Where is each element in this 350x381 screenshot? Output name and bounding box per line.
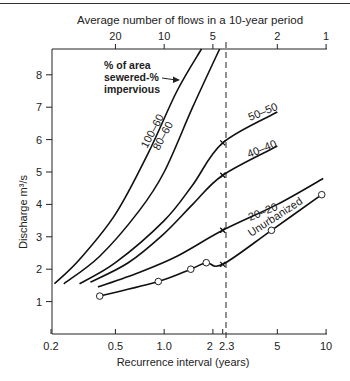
svg-text:% of area: % of area [104, 59, 151, 71]
x-tick-label: 2.3 [219, 340, 234, 352]
y-tick-label: 7 [36, 101, 42, 113]
top-tick-label: 5 [210, 30, 216, 42]
x-tick-label: 0.5 [108, 340, 123, 352]
x-tick-label: 2 [207, 340, 213, 352]
y-tick-label: 4 [36, 198, 42, 210]
x-tick-label: 5 [274, 340, 280, 352]
circle-marker [318, 191, 325, 198]
top-tick-label: 20 [109, 30, 121, 42]
y-axis-ticks: 12345678 [36, 69, 52, 308]
y-tick-label: 3 [36, 231, 42, 243]
curves [54, 49, 323, 296]
curve-20-20 [98, 178, 323, 287]
top-tick-label: 1 [323, 30, 329, 42]
x-marker [220, 173, 225, 178]
discharge-chart: 12345678 0.20.51.022.3510 2010521 Averag… [0, 0, 350, 381]
x-axis-label: Recurrence interval (years) [117, 356, 250, 368]
curve-50-50 [80, 112, 278, 284]
top-tick-label: 10 [158, 30, 170, 42]
legend-annotation: % of area sewered-% impervious [104, 59, 160, 95]
circle-marker [187, 266, 194, 273]
y-tick-label: 6 [36, 134, 42, 146]
x-axis-ticks: 0.20.51.022.3510 [43, 329, 332, 352]
x-tick-label: 0.2 [43, 340, 58, 352]
circle-marker [155, 278, 162, 285]
circle-marker [268, 227, 275, 234]
x-tick-label: 10 [320, 340, 332, 352]
annotation-arrow [162, 77, 180, 84]
y-axis-label: Discharge m³/s [17, 175, 29, 249]
axes [52, 49, 327, 334]
circle-marker [96, 293, 103, 300]
x-tick-label: 1.0 [157, 340, 172, 352]
svg-text:sewered-%: sewered-% [104, 71, 160, 83]
y-tick-label: 5 [36, 166, 42, 178]
svg-text:impervious: impervious [104, 83, 160, 95]
y-tick-label: 1 [36, 296, 42, 308]
top-axis-label: Average number of flows in a 10-year per… [77, 14, 303, 26]
x-marker [220, 140, 225, 145]
y-tick-label: 2 [36, 263, 42, 275]
circle-marker [203, 259, 210, 266]
label-40-40: 40–40 [245, 137, 278, 160]
y-tick-label: 8 [36, 69, 42, 81]
top-tick-label: 2 [274, 30, 280, 42]
top-axis-ticks: 2010521 [109, 30, 329, 49]
